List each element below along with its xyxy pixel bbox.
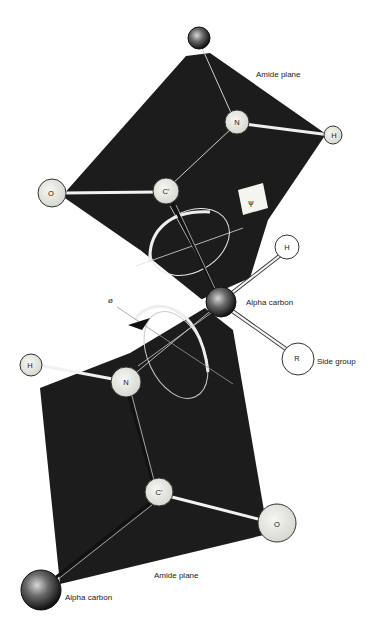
phi-symbol: ø <box>108 296 113 305</box>
svg-text:N: N <box>234 118 239 127</box>
atom-O-upper: O <box>38 179 66 207</box>
upper-amide-plane <box>62 53 326 300</box>
svg-text:O: O <box>48 189 54 198</box>
svg-text:C': C' <box>156 488 163 497</box>
peptide-torsion-diagram: ψ ø N H O <box>0 0 384 631</box>
atom-N-lower: N <box>111 367 141 397</box>
atom-C-prime-upper: C' <box>153 178 179 204</box>
atom-H-upper: H <box>324 126 342 144</box>
atom-N-upper: N <box>225 110 249 134</box>
alpha-carbon-bottom-label: Alpha carbon <box>65 593 112 602</box>
lower-amide-plane-label: Amide plane <box>154 571 199 580</box>
alpha-carbon-center <box>206 287 236 317</box>
svg-text:H: H <box>27 361 32 370</box>
lower-amide-plane <box>40 308 268 584</box>
svg-text:H: H <box>284 243 289 252</box>
psi-symbol: ψ <box>248 198 254 207</box>
bond-C-O-upper <box>63 192 158 193</box>
alpha-carbon-lower <box>21 570 61 610</box>
svg-text:N: N <box>123 378 128 387</box>
upper-amide-plane-label: Amide plane <box>256 70 301 79</box>
svg-text:C': C' <box>163 187 170 196</box>
atom-R-side-group: R <box>282 343 314 375</box>
svg-text:H: H <box>331 131 336 140</box>
bond-alpha-R-core <box>228 308 293 354</box>
svg-text:O: O <box>274 520 280 529</box>
side-group-label: Side group <box>317 357 356 366</box>
atom-H-lower: H <box>20 354 42 376</box>
atom-O-lower: O <box>258 504 296 542</box>
atom-C-prime-lower: C' <box>145 478 173 506</box>
svg-text:R: R <box>294 354 300 363</box>
alpha-carbon-center-label: Alpha carbon <box>246 298 293 307</box>
alpha-carbon-upper <box>188 27 210 49</box>
atom-H-center: H <box>275 235 299 259</box>
